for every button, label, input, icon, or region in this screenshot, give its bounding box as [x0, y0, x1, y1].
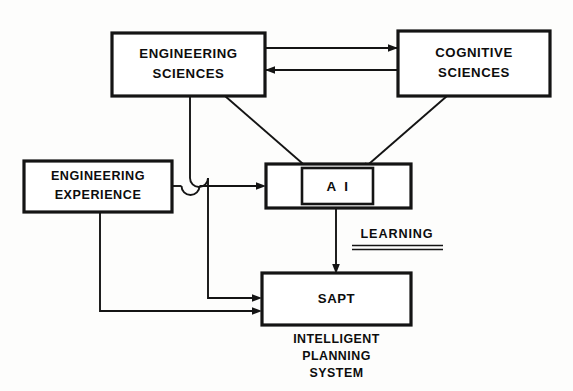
cognitive-sciences-box [398, 31, 550, 96]
edge-eng-exp-to-ai [172, 182, 266, 195]
block-diagram: ENGINEERING SCIENCES COGNITIVE SCIENCES … [0, 0, 573, 391]
sapt-caption-line2: PLANNING [302, 349, 371, 363]
edge-ai-to-sapt-learning [332, 208, 340, 274]
engineering-sciences-box [112, 33, 265, 96]
edge-cog-sci-to-eng-sci [265, 66, 398, 74]
diagram-canvas: ENGINEERING SCIENCES COGNITIVE SCIENCES … [0, 0, 573, 391]
engineering-experience-label-line2: EXPERIENCE [55, 188, 142, 202]
edge-eng-sci-to-cog-sci [265, 44, 398, 52]
learning-edge-label: LEARNING [352, 227, 443, 249]
node-cognitive-sciences[interactable]: COGNITIVE SCIENCES [398, 31, 550, 96]
sapt-caption: INTELLIGENT PLANNING SYSTEM [293, 332, 380, 380]
sapt-caption-line3: SYSTEM [310, 366, 364, 380]
engineering-sciences-label-line1: ENGINEERING [139, 46, 237, 61]
node-engineering-experience[interactable]: ENGINEERING EXPERIENCE [24, 161, 172, 212]
engineering-experience-label-line1: ENGINEERING [51, 169, 145, 183]
learning-label-text: LEARNING [361, 227, 434, 241]
sapt-label: SAPT [318, 291, 355, 306]
cognitive-sciences-label-line1: COGNITIVE [435, 45, 513, 60]
edge-eng-sci-to-ai [225, 96, 314, 173]
edge-eng-sci-to-sapt [190, 96, 262, 302]
edge-eng-exp-to-sapt [100, 212, 262, 315]
node-ai[interactable]: A I [266, 164, 411, 208]
ai-label: A I [327, 179, 351, 194]
node-engineering-sciences[interactable]: ENGINEERING SCIENCES [112, 33, 265, 96]
cognitive-sciences-label-line2: SCIENCES [438, 65, 510, 80]
node-sapt[interactable]: SAPT [262, 273, 411, 325]
engineering-sciences-label-line2: SCIENCES [153, 66, 225, 81]
edge-cog-sci-to-ai [359, 96, 448, 173]
sapt-caption-line1: INTELLIGENT [293, 332, 380, 346]
